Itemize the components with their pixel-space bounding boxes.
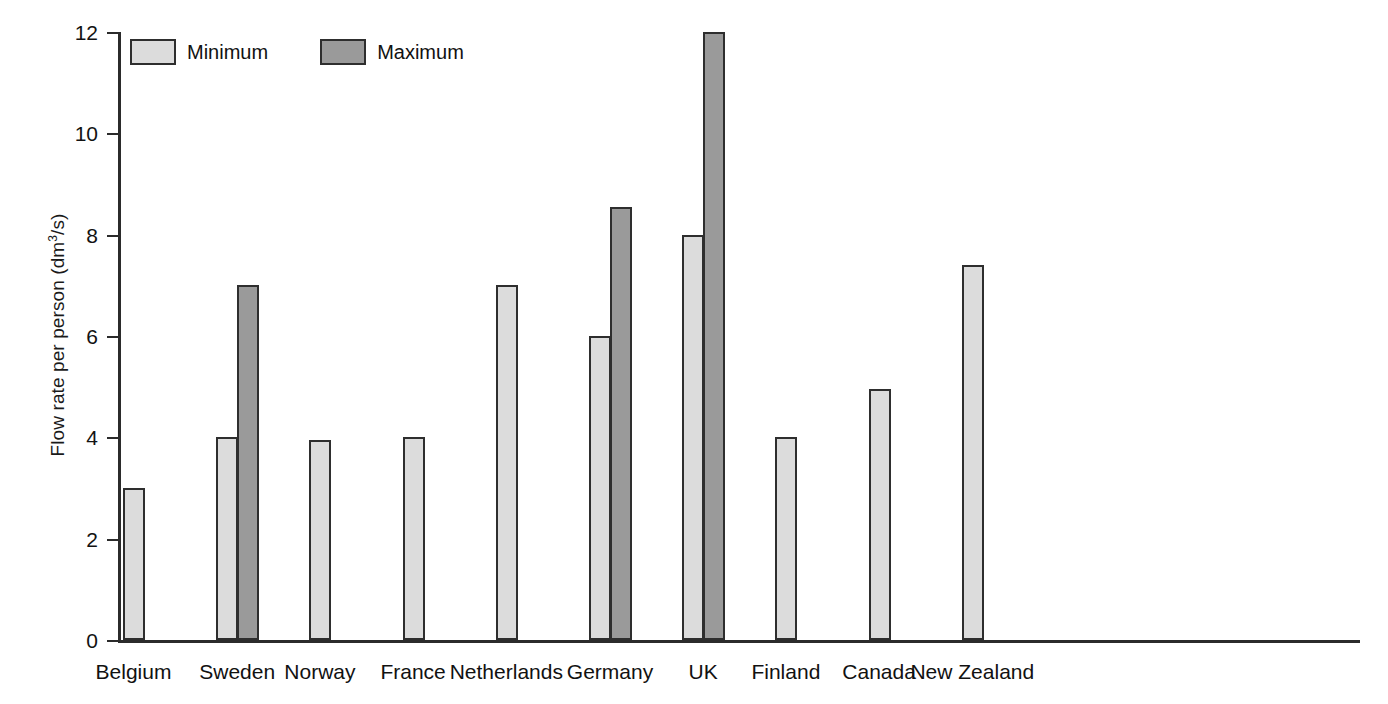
bar-norway-minimum bbox=[309, 440, 331, 640]
y-tick-label-4: 4 bbox=[86, 426, 98, 450]
x-label-norway: Norway bbox=[284, 660, 355, 684]
bar-finland-minimum bbox=[775, 437, 797, 640]
y-tick-12: 12 bbox=[107, 32, 119, 34]
bar-canada-minimum bbox=[869, 389, 891, 640]
y-tick-0: 0 bbox=[107, 640, 119, 642]
bar-belgium-minimum bbox=[123, 488, 145, 640]
bar-uk-maximum bbox=[703, 32, 725, 640]
y-tick-label-6: 6 bbox=[86, 325, 98, 349]
y-axis-title-prefix: Flow rate per person (dm bbox=[47, 242, 68, 457]
plot-area: 024681012 BelgiumSwedenNorwayFranceNethe… bbox=[118, 32, 1360, 642]
legend-entry-maximum: Maximum bbox=[320, 39, 464, 65]
bar-chart: Flow rate per person (dm3/s) 024681012 B… bbox=[0, 0, 1388, 704]
bar-new-zealand-minimum bbox=[962, 265, 984, 640]
x-label-new-zealand: New Zealand bbox=[910, 660, 1034, 684]
y-tick-label-12: 12 bbox=[75, 21, 98, 45]
x-label-canada: Canada bbox=[842, 660, 916, 684]
x-label-uk: UK bbox=[689, 660, 718, 684]
y-axis-title-suffix: /s) bbox=[47, 214, 68, 235]
legend-entry-minimum: Minimum bbox=[130, 39, 268, 65]
chart-legend: Minimum Maximum bbox=[130, 39, 464, 65]
x-label-finland: Finland bbox=[751, 660, 820, 684]
legend-swatch-maximum-icon bbox=[320, 39, 366, 65]
y-tick-2: 2 bbox=[107, 539, 119, 541]
y-tick-label-2: 2 bbox=[86, 528, 98, 552]
bar-sweden-minimum bbox=[216, 437, 238, 640]
bar-france-minimum bbox=[403, 437, 425, 640]
y-axis-title: Flow rate per person (dm3/s) bbox=[47, 55, 69, 615]
bar-germany-minimum bbox=[589, 336, 611, 640]
y-tick-label-0: 0 bbox=[86, 629, 98, 653]
x-label-belgium: Belgium bbox=[96, 660, 172, 684]
legend-label-minimum: Minimum bbox=[187, 41, 268, 64]
x-label-germany: Germany bbox=[567, 660, 653, 684]
bar-uk-minimum bbox=[682, 235, 704, 640]
bar-germany-maximum bbox=[610, 207, 632, 640]
y-tick-10: 10 bbox=[107, 133, 119, 135]
legend-swatch-minimum-icon bbox=[130, 39, 176, 65]
bar-netherlands-minimum bbox=[496, 285, 518, 640]
bar-sweden-maximum bbox=[237, 285, 259, 640]
y-tick-label-10: 10 bbox=[75, 122, 98, 146]
x-axis-line bbox=[118, 640, 1360, 643]
y-axis-title-superscript: 3 bbox=[46, 235, 60, 242]
y-tick-4: 4 bbox=[107, 437, 119, 439]
legend-label-maximum: Maximum bbox=[377, 41, 464, 64]
x-label-netherlands: Netherlands bbox=[450, 660, 563, 684]
y-tick-8: 8 bbox=[107, 235, 119, 237]
y-tick-6: 6 bbox=[107, 336, 119, 338]
x-label-france: France bbox=[380, 660, 445, 684]
y-tick-label-8: 8 bbox=[86, 224, 98, 248]
x-label-sweden: Sweden bbox=[199, 660, 275, 684]
